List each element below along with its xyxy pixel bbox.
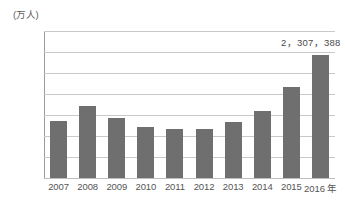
- x-tick-year: 2015: [281, 181, 302, 192]
- x-tick-label-2007: 2007: [48, 181, 69, 192]
- bar-chart-figure: (万人) 180190200210220230240250 2，307，388 …: [0, 0, 345, 210]
- bar-2009: [108, 118, 125, 178]
- bar-2010: [137, 127, 154, 178]
- bar-2008: [79, 106, 96, 178]
- x-tick-label-2015: 2015: [281, 181, 302, 192]
- value-annotation-2016: 2，307，388: [281, 35, 341, 49]
- x-axis-labels: 2007200820092010201120122013201420152016…: [44, 181, 335, 197]
- x-tick-label-2012: 2012: [194, 181, 215, 192]
- x-tick-year: 2008: [77, 181, 98, 192]
- x-tick-year: 2013: [223, 181, 244, 192]
- x-tick-label-2013: 2013: [223, 181, 244, 192]
- bar-2014: [254, 111, 271, 178]
- bar-2013: [225, 122, 242, 178]
- x-tick-label-2014: 2014: [252, 181, 273, 192]
- bar-2016: [312, 55, 329, 178]
- x-tick-label-2009: 2009: [106, 181, 127, 192]
- x-tick-year: 2014: [252, 181, 273, 192]
- x-tick-label-2016: 2016年: [304, 181, 337, 195]
- plot-area: 180190200210220230240250: [44, 31, 335, 178]
- x-tick-year: 2016: [304, 183, 325, 194]
- bar-2011: [166, 129, 183, 178]
- x-tick-year: 2012: [194, 181, 215, 192]
- x-tick-label-2010: 2010: [135, 181, 156, 192]
- bar-2007: [50, 121, 67, 178]
- x-tick-year: 2010: [135, 181, 156, 192]
- x-axis-suffix-label: 年: [327, 183, 337, 194]
- bar-2012: [196, 129, 213, 178]
- bars-group: [44, 31, 335, 178]
- y-axis-unit-label: (万人): [13, 7, 39, 21]
- x-tick-year: 2009: [106, 181, 127, 192]
- x-tick-label-2008: 2008: [77, 181, 98, 192]
- gridline-180: [44, 178, 335, 179]
- x-tick-year: 2007: [48, 181, 69, 192]
- bar-2015: [283, 87, 300, 178]
- x-tick-year: 2011: [165, 181, 185, 192]
- x-tick-label-2011: 2011: [165, 181, 185, 192]
